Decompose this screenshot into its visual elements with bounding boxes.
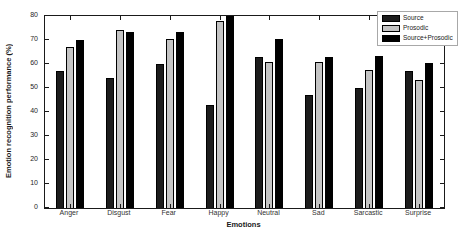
x-tick-mark [369, 16, 370, 20]
x-tick-mark [220, 204, 221, 208]
x-tick-label: Sarcastic [343, 209, 393, 216]
bar-source+prosodic-fear [176, 32, 184, 208]
x-tick-mark [170, 204, 171, 208]
legend-swatch-source+prosodic [382, 35, 400, 42]
legend-entry-source+prosodic: Source+Prosodic [382, 34, 453, 42]
x-tick-mark [269, 16, 270, 20]
legend-label: Prosodic [403, 24, 428, 32]
y-tick-label: 30 [20, 131, 38, 138]
bar-source+prosodic-sarcastic [375, 56, 383, 208]
legend-label: Source [403, 14, 424, 22]
bar-source-sad [305, 95, 313, 208]
x-tick-label: Surprise [393, 209, 443, 216]
bar-group-sad [294, 16, 344, 208]
bar-prosodic-surprise [415, 80, 423, 208]
bar-group-anger [45, 16, 95, 208]
legend-entry-source: Source [382, 14, 453, 22]
x-tick-label: Fear [144, 209, 194, 216]
bar-source-neutral [255, 57, 263, 208]
x-tick-label: Sad [293, 209, 343, 216]
y-tick-label: 60 [20, 59, 38, 66]
x-tick-label: Neutral [244, 209, 294, 216]
x-tick-mark [319, 204, 320, 208]
x-tick-mark [70, 16, 71, 20]
bar-source+prosodic-surprise [425, 63, 433, 208]
bar-source+prosodic-neutral [275, 39, 283, 208]
y-tick-label: 50 [20, 83, 38, 90]
bar-group-fear [145, 16, 195, 208]
bar-source+prosodic-happy [226, 16, 234, 208]
y-tick-label: 80 [20, 11, 38, 18]
legend-swatch-prosodic [382, 25, 400, 32]
bar-prosodic-fear [166, 39, 174, 208]
x-tick-mark [170, 16, 171, 20]
bar-group-disgust [95, 16, 145, 208]
legend: SourceProsodicSource+Prosodic [377, 11, 458, 46]
bar-prosodic-neutral [265, 62, 273, 208]
legend-entry-prosodic: Prosodic [382, 24, 453, 32]
bar-prosodic-happy [216, 21, 224, 208]
emotion-recognition-bar-chart: Emotion recognition performance (%) 0102… [0, 0, 462, 240]
x-tick-mark [319, 16, 320, 20]
bar-source-anger [56, 71, 64, 208]
bar-source+prosodic-anger [76, 40, 84, 208]
bar-prosodic-anger [66, 47, 74, 208]
x-tick-mark [220, 16, 221, 20]
y-tick-label: 20 [20, 155, 38, 162]
x-tick-label: Happy [194, 209, 244, 216]
x-tick-mark [419, 204, 420, 208]
y-axis-title: Emotion recognition performance (%) [2, 15, 14, 207]
x-tick-label: Disgust [94, 209, 144, 216]
x-tick-mark [120, 204, 121, 208]
bar-source+prosodic-disgust [126, 32, 134, 208]
y-tick-label: 40 [20, 107, 38, 114]
legend-swatch-source [382, 15, 400, 22]
y-tick-label: 10 [20, 179, 38, 186]
x-axis-title: Emotions [44, 220, 443, 229]
x-tick-mark [70, 204, 71, 208]
y-tick-label: 70 [20, 35, 38, 42]
bar-source-disgust [106, 78, 114, 208]
x-tick-mark [120, 16, 121, 20]
x-tick-label: Anger [44, 209, 94, 216]
bar-prosodic-disgust [116, 30, 124, 208]
y-axis-tick-labels: 01020304050607080 [20, 15, 40, 207]
bar-source-happy [206, 105, 214, 208]
bar-source+prosodic-sad [325, 57, 333, 208]
x-tick-mark [369, 204, 370, 208]
bar-source-sarcastic [355, 88, 363, 208]
y-tick-label: 0 [20, 203, 38, 210]
legend-label: Source+Prosodic [403, 34, 453, 42]
bar-group-neutral [245, 16, 295, 208]
bar-source-surprise [405, 71, 413, 208]
x-tick-mark [269, 204, 270, 208]
bar-prosodic-sad [315, 62, 323, 208]
bar-source-fear [156, 64, 164, 208]
bar-group-happy [195, 16, 245, 208]
x-axis-tick-labels: AngerDisgustFearHappyNeutralSadSarcastic… [44, 209, 443, 219]
bar-prosodic-sarcastic [365, 70, 373, 208]
